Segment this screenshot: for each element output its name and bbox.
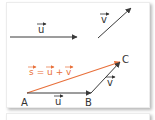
sum-plus: + — [53, 67, 66, 77]
vector-ab-label: u — [55, 96, 61, 107]
point-c-label: C — [122, 54, 129, 65]
vector-v-label: v — [101, 14, 107, 25]
vector-diagram: u v s = u + v u v A B C — [0, 0, 155, 120]
point-b-label: B — [85, 97, 92, 108]
sum-u: u — [47, 67, 53, 77]
vector-bc-label: v — [107, 77, 113, 88]
sum-v: v — [66, 67, 72, 77]
free-vector-u: u — [10, 24, 77, 37]
point-a-label: A — [21, 97, 28, 108]
sum-equation: s = u + v — [28, 67, 73, 77]
sum-eq: = — [34, 67, 47, 77]
free-vector-v: v — [98, 8, 131, 38]
vector-u-label: u — [38, 24, 44, 35]
